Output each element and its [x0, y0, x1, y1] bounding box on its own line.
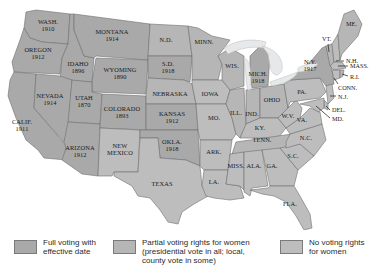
us-suffrage-map: WASH.1910OREGON1912CALIF.1911IDAHO1896NE… [0, 0, 384, 230]
legend-item-partial: Partial voting rights for women (preside… [113, 238, 250, 265]
legend-label-none: No voting rights for women [309, 238, 365, 256]
state-label-ut: UTAH1870 [75, 94, 93, 108]
state-label-la: LA. [209, 178, 220, 185]
state-label-md: MD. [332, 115, 344, 122]
state-label-mo: MO. [208, 114, 220, 121]
state-fl [250, 186, 312, 230]
legend-item-full: Full voting with effective date [14, 238, 96, 256]
state-label-mn: MINN. [194, 38, 213, 45]
state-label-wv: W.V. [282, 112, 295, 119]
legend-swatch-none [280, 240, 303, 254]
state-label-ky: KY. [255, 124, 266, 131]
legend-swatch-partial [113, 240, 136, 254]
state-label-vt: VT. [322, 35, 332, 42]
state-label-fl: FLA. [283, 200, 297, 207]
state-label-va: VA. [297, 116, 308, 123]
state-label-ma: MASS. [350, 62, 369, 69]
state-label-ct: CONN. [338, 84, 358, 91]
state-label-al: ALA. [246, 162, 261, 169]
state-label-il: ILL. [230, 109, 242, 116]
state-label-tx: TEXAS [151, 180, 172, 187]
state-label-nc: N.C. [300, 134, 313, 141]
state-label-ar: ARK. [206, 148, 222, 155]
legend-swatch-full [14, 240, 37, 254]
state-nj [326, 84, 334, 104]
state-label-tn: TENN. [252, 136, 271, 143]
state-label-ri: R.I. [350, 73, 360, 80]
state-label-oh: OHIO [264, 96, 281, 103]
state-label-ny: N.Y.1917 [303, 58, 317, 72]
state-label-pa: PA. [297, 88, 307, 95]
map-legend: Full voting with effective date Partial … [0, 238, 384, 272]
legend-label-full: Full voting with effective date [43, 238, 96, 256]
state-label-me: ME. [346, 20, 357, 27]
state-me [338, 10, 362, 60]
state-label-ia: IOWA [201, 90, 218, 97]
state-label-ga: GA. [266, 162, 277, 169]
state-label-nd: N.D. [160, 36, 173, 43]
legend-label-partial: Partial voting rights for women (preside… [142, 238, 250, 265]
state-label-in: IND. [245, 110, 259, 117]
state-label-nj: N.J. [338, 93, 348, 100]
state-label-ms: MISS. [227, 162, 244, 169]
state-label-sc: S.C. [287, 152, 299, 159]
legend-item-none: No voting rights for women [280, 238, 365, 256]
state-label-de: DEL. [332, 106, 346, 113]
state-label-sd: S.D.1918 [161, 60, 174, 74]
state-de [324, 100, 328, 110]
state-label-wi: WIS. [225, 62, 239, 69]
state-label-ne: NEBRASKA [152, 90, 188, 97]
